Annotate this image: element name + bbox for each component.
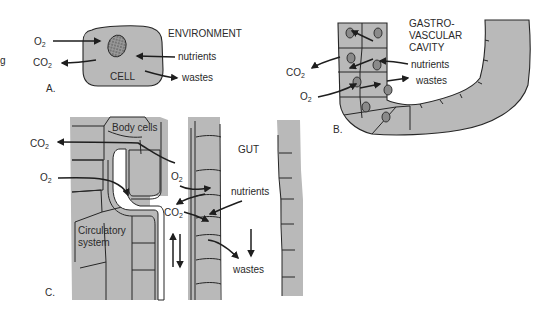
c-wastes-label: wastes [232,264,264,275]
panel-c: Body cells Circulatory system GUT CO2 O2… [30,117,303,300]
cavity-label-line-1: GASTRO- [409,18,455,29]
panel-a-label: A. [46,83,55,94]
panel-c-label: C. [45,287,55,298]
body-cells-label: Body cells [112,122,158,133]
o2-label: O2 [34,36,46,48]
edge-fragment-text: g [0,55,6,66]
b-co2-label: CO2 [286,67,305,79]
environment-label: ENVIRONMENT [168,28,242,39]
c-nutrients-label: nutrients [231,186,269,197]
cavity-label-line-3: CAVITY [409,42,445,53]
gut-wall-left [188,117,220,300]
cavity-label-line-2: VASCULAR [409,30,462,41]
diagram-canvas: g CELL ENVIRONMENT O2 CO2 nutrients wast… [0,0,550,314]
b-wastes-label: wastes [415,75,447,86]
circulatory-label-line-1: Circulatory [78,225,126,236]
c-gut-o2-label: O2 [171,171,183,183]
co2-label: CO2 [33,57,52,69]
b-co2-out-arrow [312,57,340,68]
c-co2-label: CO2 [30,138,49,150]
panel-b: GASTRO- VASCULAR CAVITY CO2 O2 nutrients… [286,18,530,135]
circulatory-label-line-2: system [78,237,110,248]
b-nutrients-label: nutrients [411,59,449,70]
b-o2-label: O2 [300,91,312,103]
panel-a: CELL ENVIRONMENT O2 CO2 nutrients wastes… [33,26,242,94]
nutrients-label: nutrients [178,51,216,62]
cell-label: CELL [110,71,135,82]
wastes-label: wastes [181,72,213,83]
c-gut-co2-label: CO2 [164,207,183,219]
panel-b-label: B. [333,124,342,135]
gut-label: GUT [238,144,259,155]
c-o2-label: O2 [40,172,52,184]
nutrients-in-arrow [137,56,175,57]
b-wastes-out-arrow [387,78,408,81]
